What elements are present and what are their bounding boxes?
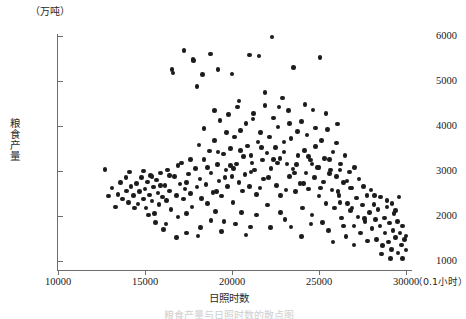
scatter-point — [312, 175, 317, 180]
scatter-point — [277, 105, 282, 110]
scatter-point — [400, 256, 405, 261]
scatter-point — [311, 108, 316, 113]
scatter-point — [152, 211, 157, 216]
scatter-point — [228, 146, 233, 151]
scatter-point — [389, 247, 394, 252]
scatter-point — [378, 224, 383, 229]
scatter-point — [178, 182, 183, 187]
scatter-point — [190, 205, 195, 210]
scatter-point — [223, 175, 228, 180]
scatter-point — [124, 175, 129, 180]
scatter-point — [286, 108, 291, 113]
scatter-point — [164, 198, 169, 203]
scatter-point — [339, 216, 344, 221]
scatter-point — [219, 194, 224, 199]
scatter-point — [393, 208, 398, 213]
scatter-point — [287, 121, 292, 126]
scatter-point — [278, 210, 283, 215]
scatter-point — [305, 133, 310, 138]
scatter-point — [225, 184, 230, 189]
scatter-point — [248, 225, 253, 230]
scatter-point — [267, 135, 272, 140]
scatter-point — [400, 224, 405, 229]
scatter-point — [348, 186, 353, 191]
scatter-point — [200, 72, 205, 77]
scatter-point — [350, 206, 355, 211]
scatter-point — [317, 165, 322, 170]
scatter-point — [310, 213, 315, 218]
scatter-point — [374, 237, 379, 242]
scatter-point — [120, 197, 125, 202]
scatter-point — [217, 179, 222, 184]
scatter-point — [302, 148, 307, 153]
x-axis-title: 日照时数 — [0, 292, 457, 304]
scatter-point — [268, 225, 273, 230]
scatter-point — [396, 251, 401, 256]
scatter-point — [204, 182, 209, 187]
scatter-point — [278, 156, 283, 161]
scatter-point — [176, 163, 181, 168]
scatter-point — [344, 234, 349, 239]
scatter-point — [365, 193, 370, 198]
scatter-point — [132, 206, 137, 211]
scatter-point — [388, 256, 393, 261]
scatter-point — [176, 215, 181, 220]
scatter-point — [357, 177, 362, 182]
scatter-point — [249, 153, 254, 158]
scatter-point — [164, 222, 169, 227]
scatter-point — [237, 180, 242, 185]
scatter-point — [184, 180, 189, 185]
scatter-point — [224, 130, 229, 135]
scatter-point — [292, 171, 297, 176]
scatter-point — [141, 169, 146, 174]
scatter-point — [151, 185, 156, 190]
scatter-point — [273, 145, 278, 150]
scatter-point — [141, 197, 146, 202]
scatter-point — [326, 228, 331, 233]
scatter-point — [275, 161, 280, 166]
scatter-point — [241, 154, 246, 159]
scatter-point — [209, 171, 214, 176]
scatter-point — [345, 179, 350, 184]
scatter-point — [171, 71, 176, 76]
scatter-point — [205, 201, 210, 206]
scatter-point — [391, 228, 396, 233]
scatter-point — [376, 207, 381, 212]
scatter-point — [239, 210, 244, 215]
scatter-point — [150, 199, 155, 204]
scatter-point — [136, 202, 141, 207]
scatter-point — [193, 166, 198, 171]
figure-caption: 粮食产量与日照时数的散点图 — [0, 310, 457, 319]
scatter-point — [127, 170, 132, 175]
scatter-point — [134, 181, 139, 186]
scatter-point — [365, 239, 370, 244]
scatter-point — [235, 105, 240, 110]
scatter-point — [276, 125, 281, 130]
scatter-point — [341, 224, 346, 229]
scatter-point — [347, 170, 352, 175]
scatter-point — [163, 183, 168, 188]
scatter-point — [150, 174, 155, 179]
scatter-point — [157, 202, 162, 207]
scatter-point — [214, 189, 219, 194]
scatter-point — [215, 162, 220, 167]
scatter-point — [263, 90, 268, 95]
scatter-point — [334, 174, 339, 179]
scatter-point — [231, 200, 236, 205]
scatter-point — [184, 231, 189, 236]
scatter-point — [283, 217, 288, 222]
scatter-point — [182, 48, 187, 53]
scatter-point — [218, 118, 223, 123]
scatter-point — [324, 111, 329, 116]
scatter-point — [219, 229, 224, 234]
scatter-point — [343, 153, 348, 158]
scatter-point — [174, 235, 179, 240]
scatter-point — [106, 194, 111, 199]
scatter-point — [256, 140, 261, 145]
scatter-point — [110, 186, 115, 191]
scatter-point — [313, 144, 318, 149]
scatter-point — [385, 198, 390, 203]
scatter-point — [230, 174, 235, 179]
scatter-point — [216, 150, 221, 155]
